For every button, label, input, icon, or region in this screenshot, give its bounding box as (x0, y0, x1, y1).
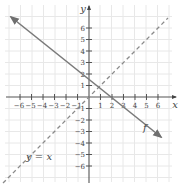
x-axis-label: x (172, 99, 178, 110)
y-tick-label: −4 (75, 140, 86, 148)
y-tick-label: 3 (81, 59, 85, 67)
coordinate-plane: −6 −5 −4 −3 −2 −1 1 2 3 4 5 6 x 6 5 4 3 … (0, 0, 180, 185)
y-tick-label: −3 (75, 128, 85, 136)
y-tick-label: 6 (81, 25, 86, 33)
y-tick-label: 4 (81, 48, 86, 56)
x-tick-label: −5 (25, 102, 35, 110)
x-tick-label: −4 (37, 102, 48, 110)
y-tick-label: 5 (81, 36, 85, 44)
x-tick-label: 1 (98, 102, 102, 110)
function-f-line (11, 17, 161, 137)
y-tick-label: −5 (75, 151, 85, 159)
x-tick-label: −2 (60, 102, 70, 110)
identity-label: y = x (25, 151, 52, 162)
x-tick-label: 4 (133, 102, 138, 110)
x-tick-label: −6 (14, 102, 25, 110)
y-tick-label: 1 (81, 82, 85, 90)
x-tick-label: 6 (156, 102, 161, 110)
y-axis-label: y (79, 3, 86, 14)
y-tick-label: −6 (75, 163, 86, 171)
x-tick-label: 5 (144, 102, 148, 110)
y-tick-label: −2 (75, 117, 85, 125)
x-tick-label: −3 (48, 102, 58, 110)
x-tick-label: 2 (110, 102, 114, 110)
